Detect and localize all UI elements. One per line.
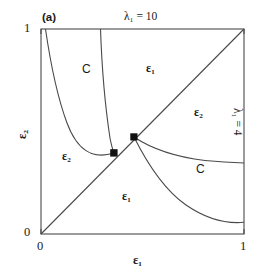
y-axis-title: ε₂	[16, 130, 29, 139]
right-upper-curve	[134, 137, 244, 163]
x-axis-tick-min: 0	[37, 240, 43, 253]
region-label-c-lower: C	[196, 163, 205, 175]
region-label-e1-upper: ε₁	[146, 62, 155, 74]
y-axis-tick-max: 1	[24, 22, 30, 35]
top-parameter-label: λ₁ = 10	[124, 11, 157, 23]
upper-inner-curve	[101, 29, 115, 153]
bifurcation-marker-upper	[130, 133, 137, 140]
plot-canvas	[0, 0, 276, 275]
x-axis-title: ε₁	[133, 254, 142, 267]
phase-diagram-figure: (a) λ₁ = 10 λ₁ = 4 1 0 0 1 ε₁ ε₂ C ε₁ ε₂…	[0, 0, 276, 275]
region-label-e2-right: ε₂	[194, 106, 203, 118]
lower-right-curve	[134, 137, 244, 223]
region-label-e1-lower: ε₁	[122, 190, 131, 202]
left-boundary-curve	[46, 29, 115, 155]
region-label-e2-left: ε₂	[62, 150, 71, 162]
x-axis-tick-max: 1	[240, 240, 246, 253]
bifurcation-marker-lower	[110, 149, 117, 156]
diagonal-line	[41, 29, 244, 234]
right-parameter-label: λ₁ = 4	[232, 108, 244, 136]
y-axis-tick-min: 0	[24, 226, 30, 239]
panel-label: (a)	[42, 12, 56, 24]
region-label-c-upper: C	[82, 63, 91, 75]
